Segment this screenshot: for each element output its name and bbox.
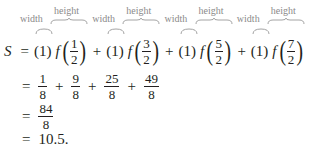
fraction: 49 8 <box>144 72 159 101</box>
width-annotation: width <box>92 13 115 24</box>
fraction: 1 8 <box>38 72 47 101</box>
height-annotation: height <box>54 5 79 16</box>
width-brace-icon <box>35 27 53 35</box>
sum-term-2: width height (1) f ( 3 2 ) <box>106 37 160 66</box>
right-paren: ) <box>224 37 231 65</box>
height-annotation: height <box>126 5 151 16</box>
riemann-sum-derivation: S = width height (1) f ( 1 2 ) + width h… <box>0 0 309 154</box>
argument-fraction: 3 2 <box>142 37 151 66</box>
height-annotation: height <box>271 5 296 16</box>
plus-sign: + <box>127 78 135 95</box>
result-value: 10.5. <box>38 131 68 148</box>
equals-sign: = <box>21 43 29 60</box>
step-fractions-line: = 1 8 + 9 8 + 25 8 + 49 8 <box>22 72 159 101</box>
function-name: f <box>200 43 204 60</box>
width-brace-icon <box>252 27 270 35</box>
function-name: f <box>128 43 132 60</box>
height-brace-icon <box>267 17 305 25</box>
left-paren: ( <box>62 37 69 65</box>
equals-sign: = <box>22 78 30 95</box>
step-sum-line: = 84 8 <box>22 102 53 131</box>
width-value: (1) <box>106 43 124 60</box>
left-paren: ( <box>279 37 286 65</box>
equals-sign: = <box>22 108 30 125</box>
plus-sign: + <box>237 43 245 60</box>
width-annotation: width <box>165 13 188 24</box>
width-brace-icon <box>107 27 125 35</box>
function-name: f <box>272 43 276 60</box>
sum-term-3: width height (1) f ( 5 2 ) <box>179 37 233 66</box>
argument-fraction: 1 2 <box>70 37 79 66</box>
height-annotation: height <box>199 5 224 16</box>
width-value: (1) <box>251 43 269 60</box>
result-line: = 10.5. <box>22 131 68 148</box>
function-name: f <box>55 43 59 60</box>
argument-fraction: 7 2 <box>287 37 296 66</box>
width-annotation: width <box>237 13 260 24</box>
left-paren: ( <box>134 37 141 65</box>
right-paren: ) <box>80 37 87 65</box>
plus-sign: + <box>165 43 173 60</box>
plus-sign: + <box>55 78 63 95</box>
right-paren: ) <box>152 37 159 65</box>
width-value: (1) <box>34 43 52 60</box>
left-paren: ( <box>207 37 214 65</box>
plus-sign: + <box>88 78 96 95</box>
sum-term-4: width height (1) f ( 7 2 ) <box>251 37 305 66</box>
height-brace-icon <box>122 17 160 25</box>
width-annotation: width <box>20 13 43 24</box>
right-paren: ) <box>297 37 304 65</box>
fraction: 84 8 <box>38 102 53 131</box>
width-value: (1) <box>179 43 197 60</box>
sum-definition-line: S = width height (1) f ( 1 2 ) + width h… <box>4 36 305 66</box>
height-brace-icon <box>50 17 88 25</box>
width-brace-icon <box>180 27 198 35</box>
fraction: 25 8 <box>104 72 119 101</box>
equals-sign: = <box>22 131 30 148</box>
plus-sign: + <box>93 43 101 60</box>
argument-fraction: 5 2 <box>215 37 224 66</box>
height-brace-icon <box>195 17 233 25</box>
sum-term-1: width height (1) f ( 1 2 ) <box>34 37 88 66</box>
fraction: 9 8 <box>71 72 80 101</box>
sum-symbol: S <box>4 43 12 60</box>
